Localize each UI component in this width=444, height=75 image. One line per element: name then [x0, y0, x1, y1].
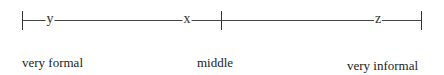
middle-tick — [221, 11, 222, 30]
mark-x: x — [183, 11, 192, 27]
right-end-tick — [421, 11, 422, 30]
mark-z: z — [374, 11, 382, 27]
mark-y: y — [46, 11, 55, 27]
left-end-tick — [22, 11, 23, 30]
label-middle: middle — [197, 55, 233, 71]
label-very-formal: very formal — [22, 55, 83, 71]
label-very-informal: very informal — [347, 58, 418, 74]
